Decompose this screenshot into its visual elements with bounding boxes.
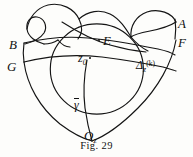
edge-b-g xyxy=(23,43,24,62)
edge-a-f xyxy=(175,19,176,39)
right-descender-to-oz xyxy=(92,40,176,141)
label-f: F xyxy=(178,36,186,49)
label-a: A xyxy=(178,17,186,30)
left-descender-to-oz xyxy=(24,62,92,141)
inner-flourish-2 xyxy=(44,40,58,44)
outer-boundary-top-left-hump xyxy=(27,4,82,39)
label-z0: z0 xyxy=(78,52,87,67)
label-delta-base: Δ xyxy=(136,58,143,72)
label-gamma-bar: γ xyxy=(74,98,79,111)
label-delta-superscript: (k) xyxy=(146,59,155,68)
figure-caption: Fig. 29 xyxy=(0,140,193,151)
label-g: G xyxy=(7,60,16,73)
outer-boundary-right-lobe-inner xyxy=(131,22,176,37)
label-gamma-base: γ xyxy=(74,98,79,111)
label-delta-z-k: Δz(k) xyxy=(136,59,155,74)
label-b: B xyxy=(9,38,17,51)
label-e: E xyxy=(103,34,111,47)
outer-boundary-right-lobe xyxy=(131,11,176,37)
figure-29: B G A F E z0 Δz(k) γ Oz Fig. 29 xyxy=(0,0,193,157)
label-z0-subscript: 0 xyxy=(83,58,87,67)
